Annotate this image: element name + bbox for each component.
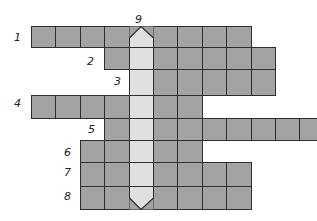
grid-cell-row5-col8[interactable]: [202, 118, 227, 141]
grid-cell-row1-col6[interactable]: [153, 26, 178, 48]
clue-number-6: 6: [64, 147, 71, 158]
clue-number-3: 3: [114, 76, 121, 87]
clue-number-8: 8: [64, 191, 71, 202]
grid-cell-row1-col2[interactable]: [55, 26, 81, 48]
clue-number-7: 7: [64, 167, 71, 178]
grid-cell-row8-col5[interactable]: [129, 186, 154, 210]
grid-cell-row8-col8[interactable]: [202, 186, 227, 210]
grid-cell-row4-col4[interactable]: [104, 95, 130, 119]
grid-cell-row3-col6[interactable]: [153, 69, 178, 96]
crossword-grid: 12345678: [0, 0, 317, 221]
grid-cell-row4-col2[interactable]: [55, 95, 81, 119]
clue-number-2: 2: [87, 56, 94, 67]
grid-cell-row1-col3[interactable]: [80, 26, 105, 48]
grid-cell-row2-col9[interactable]: [226, 47, 252, 70]
grid-cell-row6-col7[interactable]: [177, 140, 203, 163]
grid-cell-row5-col11[interactable]: [275, 118, 300, 141]
grid-cell-row2-col10[interactable]: [251, 47, 276, 70]
grid-cell-row3-col9[interactable]: [226, 69, 252, 96]
grid-cell-row2-col7[interactable]: [177, 47, 203, 70]
grid-cell-row3-col8[interactable]: [202, 69, 227, 96]
grid-cell-row3-col5[interactable]: [129, 69, 154, 96]
grid-cell-row5-col12[interactable]: [299, 118, 317, 141]
grid-cell-row1-col4[interactable]: [104, 26, 130, 48]
grid-cell-row7-col3[interactable]: [80, 162, 105, 187]
grid-cell-row3-col10[interactable]: [251, 69, 276, 96]
grid-cell-row8-col6[interactable]: [153, 186, 178, 210]
grid-cell-row6-col6[interactable]: [153, 140, 178, 163]
grid-cell-row4-col5[interactable]: [129, 95, 154, 119]
grid-cell-row6-col3[interactable]: [80, 140, 105, 163]
grid-cell-row1-col1[interactable]: [31, 26, 56, 48]
clue-number-1: 1: [14, 32, 21, 43]
grid-cell-row5-col10[interactable]: [251, 118, 276, 141]
grid-cell-row6-col4[interactable]: [104, 140, 130, 163]
grid-cell-row2-col8[interactable]: [202, 47, 227, 70]
grid-cell-row8-col4[interactable]: [104, 186, 130, 210]
grid-cell-row4-col1[interactable]: [31, 95, 56, 119]
grid-cell-row5-col5[interactable]: [129, 118, 154, 141]
grid-cell-row7-col6[interactable]: [153, 162, 178, 187]
grid-cell-row7-col8[interactable]: [202, 162, 227, 187]
grid-cell-row8-col7[interactable]: [177, 186, 203, 210]
grid-cell-row7-col5[interactable]: [129, 162, 154, 187]
grid-cell-row1-col5[interactable]: [129, 26, 154, 48]
grid-cell-row1-col8[interactable]: [202, 26, 227, 48]
grid-cell-row8-col3[interactable]: [80, 186, 105, 210]
grid-cell-row2-col4[interactable]: [104, 47, 130, 70]
clue-number-9: 9: [135, 14, 142, 25]
clue-number-5: 5: [88, 124, 95, 135]
clue-number-4: 4: [14, 98, 21, 109]
grid-cell-row8-col9[interactable]: [226, 186, 252, 210]
grid-cell-row5-col9[interactable]: [226, 118, 252, 141]
grid-cell-row2-col6[interactable]: [153, 47, 178, 70]
grid-cell-row4-col6[interactable]: [153, 95, 178, 119]
grid-cell-row1-col9[interactable]: [226, 26, 252, 48]
grid-cell-row7-col9[interactable]: [226, 162, 252, 187]
grid-cell-row1-col7[interactable]: [177, 26, 203, 48]
grid-cell-row4-col7[interactable]: [177, 95, 203, 119]
grid-cell-row2-col5[interactable]: [129, 47, 154, 70]
grid-cell-row3-col7[interactable]: [177, 69, 203, 96]
grid-cell-row5-col7[interactable]: [177, 118, 203, 141]
grid-cell-row6-col5[interactable]: [129, 140, 154, 163]
grid-cell-row7-col4[interactable]: [104, 162, 130, 187]
grid-cell-row5-col4[interactable]: [104, 118, 130, 141]
grid-cell-row5-col6[interactable]: [153, 118, 178, 141]
grid-cell-row7-col7[interactable]: [177, 162, 203, 187]
grid-cell-row4-col3[interactable]: [80, 95, 105, 119]
